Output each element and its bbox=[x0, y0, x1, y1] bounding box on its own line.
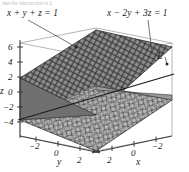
x-tick-0: 0 bbox=[131, 148, 136, 158]
z-tick-neg2: −2 bbox=[3, 102, 14, 112]
z-tick-4: 4 bbox=[8, 57, 13, 67]
z-tick-2: 2 bbox=[8, 72, 13, 82]
y-axis-label: y bbox=[57, 157, 61, 167]
x-axis-label: x bbox=[136, 157, 140, 167]
x-tick-neg2: −2 bbox=[152, 141, 163, 151]
plane-label-right: x − 2y + 3z = 1 bbox=[107, 8, 168, 18]
x-tick-2: 2 bbox=[107, 155, 112, 165]
intersection-line-label: L bbox=[157, 50, 163, 61]
z-tick-6: 6 bbox=[8, 42, 13, 52]
z-tick-0: 0 bbox=[8, 87, 13, 97]
z-axis-label: z bbox=[0, 86, 4, 96]
z-tick-neg4: −4 bbox=[3, 117, 14, 127]
y-tick-2: 2 bbox=[77, 155, 82, 165]
plane-label-left: x + y + z = 1 bbox=[7, 8, 58, 18]
y-tick-neg2: −2 bbox=[29, 141, 40, 151]
figure-3d-plane-intersection: that the intersection is L bbox=[0, 0, 189, 172]
